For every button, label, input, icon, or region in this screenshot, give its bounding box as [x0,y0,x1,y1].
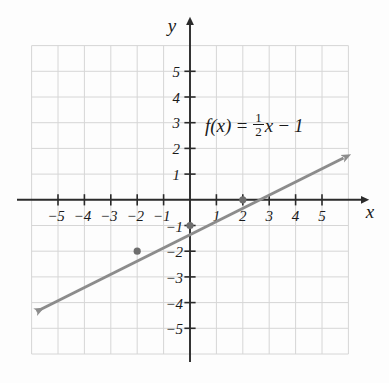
y-axis-label: y [166,15,177,36]
x-tick-label: −2 [126,208,144,224]
y-tick-label: 4 [173,90,181,106]
y-tick-label: −3 [165,270,183,286]
equation-variable: x [265,116,273,135]
y-tick-label: −4 [165,296,183,312]
x-tick-label: −3 [100,208,118,224]
plotted-point [134,248,141,255]
equation-minus-sign: − [277,116,290,135]
y-tick-label: 2 [173,141,181,157]
x-tick-labels: −5 −4 −3 −2 −1 1 2 3 4 5 [47,208,326,224]
equation-fraction: 1 2 [253,111,264,139]
fraction-denominator: 2 [253,124,264,138]
plotted-point [186,222,193,229]
plotted-point [239,196,246,203]
x-tick-label: −5 [47,208,65,224]
y-tick-label: 1 [173,167,181,183]
x-tick-label: 5 [318,208,326,224]
x-tick-label: −4 [74,208,92,224]
equation-equals-sign: = [235,116,248,135]
y-tick-label: −5 [165,321,183,337]
function-equation: f(x) = 1 2 x − 1 [205,112,303,140]
fraction-numerator: 1 [253,111,264,124]
equation-lhs: f(x) [205,116,231,135]
y-tick-label: 5 [173,64,181,80]
y-tick-label: −1 [165,219,183,235]
graph-figure: −5 −4 −3 −2 −1 1 2 3 4 5 5 4 3 2 1 −1 −2… [0,0,389,383]
x-tick-label: 3 [264,208,273,224]
x-axis-label: x [365,201,375,222]
x-tick-label: 4 [292,208,300,224]
equation-constant: 1 [294,116,304,135]
coordinate-plane: −5 −4 −3 −2 −1 1 2 3 4 5 5 4 3 2 1 −1 −2… [0,0,389,383]
y-tick-label: 3 [172,115,181,131]
